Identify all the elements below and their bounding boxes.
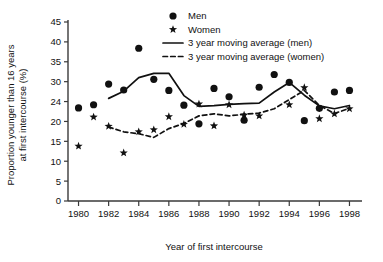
legend-label: Men — [188, 10, 206, 21]
x-tick-label: 1998 — [339, 208, 360, 219]
y-tick-label: 45 — [50, 16, 61, 27]
y-tick-label: 20 — [50, 116, 61, 127]
men-point — [316, 105, 323, 112]
y-axis-title-line2: at first intercourse (%) — [17, 69, 28, 162]
x-tick-label: 1996 — [309, 208, 330, 219]
men-point — [331, 88, 338, 95]
x-tick-label: 1982 — [98, 208, 119, 219]
x-tick-label: 1990 — [218, 208, 239, 219]
men-point — [150, 76, 157, 83]
x-tick-label: 1980 — [68, 208, 89, 219]
men-point — [241, 117, 248, 124]
y-tick-label: 10 — [50, 156, 61, 167]
y-tick-label: 30 — [50, 76, 61, 87]
y-tick-label: 35 — [50, 56, 61, 67]
legend-circle-icon — [169, 12, 176, 19]
men-point — [75, 104, 82, 111]
y-tick-label: 24 — [50, 96, 61, 107]
legend-label: Women — [188, 24, 221, 35]
x-tick-label: 1986 — [158, 208, 179, 219]
men-point — [180, 102, 187, 109]
men-point — [165, 87, 172, 94]
x-tick-label: 1984 — [128, 208, 149, 219]
men-point — [90, 101, 97, 108]
chart-figure: Proportion younger than 16 years at firs… — [0, 0, 383, 262]
men-point — [346, 87, 353, 94]
men-point — [301, 117, 308, 124]
men-point — [210, 85, 217, 92]
men-point — [195, 120, 202, 127]
y-tick-label: 15 — [50, 136, 61, 147]
men-point — [256, 84, 263, 91]
x-tick-label: 1992 — [249, 208, 270, 219]
scatter-chart: Proportion younger than 16 years at firs… — [0, 0, 383, 262]
x-tick-label: 1988 — [188, 208, 209, 219]
y-tick-label: 40 — [50, 36, 61, 47]
x-axis-title: Year of first intercourse — [165, 241, 262, 252]
x-tick-label: 1994 — [279, 208, 300, 219]
men-point — [225, 93, 232, 100]
legend-label: 3 year moving average (men) — [188, 37, 312, 48]
legend-label: 3 year moving average (women) — [188, 51, 324, 62]
men-point — [135, 45, 142, 52]
men-point — [286, 79, 293, 86]
y-axis-title-line1: Proportion younger than 16 years — [5, 44, 16, 185]
men-point — [271, 71, 278, 78]
men-point — [120, 86, 127, 93]
y-tick-label: 0 — [56, 195, 61, 206]
men-point — [105, 80, 112, 87]
y-tick-label: 5 — [56, 176, 61, 187]
